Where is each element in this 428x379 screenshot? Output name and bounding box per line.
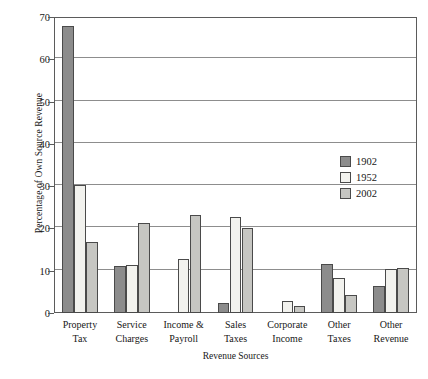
x-tick-label-line: Taxes [328,332,351,346]
x-tick-label-line: Taxes [224,332,247,346]
legend-item-1902: 1902 [340,154,377,168]
bar-1952-2 [178,259,190,313]
x-tick-label-line: Income & [164,318,204,332]
x-tick-label-line: Payroll [164,332,204,346]
bar-2002-2 [190,215,202,313]
x-tick-label: OtherRevenue [374,318,409,345]
x-tick-label-line: Revenue [374,332,409,346]
x-tick-label-line: Property [63,318,97,332]
y-tick-label: 40 [10,138,50,149]
bar-2002-6 [397,268,409,313]
bar-1902-3 [218,303,230,313]
x-axis-title: Revenue Sources [54,351,417,361]
legend: 190219522002 [340,154,377,200]
bar-1902-1 [114,266,126,313]
y-tick-label: 0 [10,308,50,319]
bar-chart: Percentage of Own Source Revenue 0102030… [0,0,428,379]
bar-1952-5 [333,278,345,313]
y-tick-label: 20 [10,223,50,234]
y-tick-label: 50 [10,96,50,107]
bar-1902-0 [62,26,74,313]
y-tick-mark [48,313,54,314]
x-tick-label: OtherTaxes [328,318,351,345]
legend-swatch-icon [340,156,351,167]
legend-swatch-icon [340,188,351,199]
bar-2002-0 [86,242,98,313]
x-tick-label-line: Charges [115,332,148,346]
y-tick-label: 30 [10,181,50,192]
bar-2002-4 [294,306,306,313]
legend-item-1952: 1952 [340,170,377,184]
x-tick-label: CorporateIncome [267,318,307,345]
x-tick-label-line: Other [374,318,409,332]
legend-label: 1952 [356,172,377,183]
x-tick-label-line: Corporate [267,318,307,332]
y-tick-label: 10 [10,265,50,276]
x-tick-label-line: Service [115,318,148,332]
x-tick-label-line: Income [267,332,307,346]
legend-label: 2002 [356,188,377,199]
x-tick-label: PropertyTax [63,318,97,345]
x-tick-label: ServiceCharges [115,318,148,345]
bar-2002-3 [242,228,254,313]
x-tick-label-line: Sales [224,318,247,332]
bar-1902-6 [373,286,385,313]
bar-1952-1 [126,265,138,313]
x-tick-label-line: Other [328,318,351,332]
bar-1902-5 [321,264,333,313]
y-tick-label: 70 [10,12,50,23]
legend-item-2002: 2002 [340,186,377,200]
x-tick-label: Income &Payroll [164,318,204,345]
bar-1952-6 [385,269,397,313]
x-tick-label: SalesTaxes [224,318,247,345]
bar-2002-5 [345,295,357,313]
legend-swatch-icon [340,172,351,183]
x-tick-label-line: Tax [63,332,97,346]
y-axis-title: Percentage of Own Source Revenue [34,28,44,298]
bar-1952-3 [230,217,242,313]
legend-label: 1902 [356,156,377,167]
bar-2002-1 [138,223,150,313]
bar-1952-0 [74,185,86,313]
bar-1952-4 [282,301,294,313]
y-tick-label: 60 [10,54,50,65]
